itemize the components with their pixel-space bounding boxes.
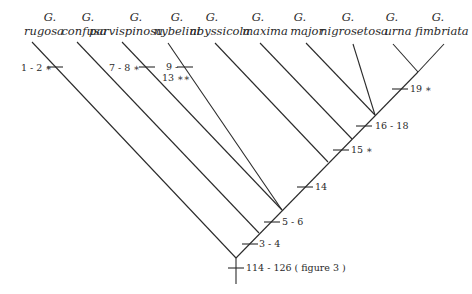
char-label-9: 9 - [166, 61, 178, 72]
species-label: abyssicola [190, 24, 250, 38]
char-label-13: 13 ∗∗ [162, 72, 190, 83]
taxon-labels: G. rugosa G. confusa G. parvispinosa G. … [24, 10, 469, 38]
species-label: maxima [242, 24, 288, 38]
genus-label: G. [206, 10, 218, 24]
branch-nigrosetosa [353, 44, 375, 115]
genus-label: G. [432, 10, 444, 24]
genus-label: G. [252, 10, 264, 24]
species-label: rugosa [24, 24, 64, 38]
char-label-7-8: 7 - 8 ∗ [109, 62, 140, 73]
species-label: fimbriata [414, 24, 469, 38]
genus-label: G. [44, 10, 56, 24]
genus-label: G. [342, 10, 354, 24]
genus-label: G. [294, 10, 306, 24]
branch-rugosa [32, 42, 236, 258]
branch-abyssicola [215, 43, 328, 162]
species-label: urna [384, 24, 411, 38]
char-label-15: 15 ∗ [351, 144, 373, 155]
taxon-parvispinosa: G. parvispinosa [89, 10, 163, 38]
char-label-19: 19 ∗ [410, 83, 432, 94]
taxon-fimbriata: G. fimbriata [414, 10, 469, 38]
species-label: nigrosetosa [320, 24, 388, 38]
char-label-16-18: 16 - 18 [375, 120, 408, 131]
char-label-1-2: 1 - 2 ∗ [21, 62, 52, 73]
branch-maxima [260, 43, 352, 139]
char-label-3-4: 3 - 4 [259, 238, 280, 249]
character-ticks [47, 67, 408, 268]
species-label: parvispinosa [89, 24, 163, 38]
genus-label: G. [130, 10, 142, 24]
branches [32, 42, 444, 284]
main-trunk [236, 72, 418, 258]
branch-major [306, 43, 375, 115]
branch-fimbriata [418, 44, 444, 72]
taxon-rugosa: G. rugosa [24, 10, 64, 38]
character-labels: 1 - 2 ∗ 7 - 8 ∗ 9 - 13 ∗∗ 19 ∗ 16 - 18 1… [21, 61, 432, 273]
taxon-nigrosetosa: G. nigrosetosa [320, 10, 388, 38]
cladogram: G. rugosa G. confusa G. parvispinosa G. … [0, 0, 472, 294]
char-label-14: 14 [315, 181, 327, 192]
genus-label: G. [82, 10, 94, 24]
char-label-114-126: 114 - 126 ( figure 3 ) [246, 262, 346, 273]
char-label-5-6: 5 - 6 [282, 216, 303, 227]
branch-urna [393, 44, 418, 72]
taxon-maxima: G. maxima [242, 10, 288, 38]
taxon-urna: G. urna [384, 10, 411, 38]
branch-nybelini [168, 43, 282, 210]
genus-label: G. [386, 10, 398, 24]
genus-label: G. [171, 10, 183, 24]
taxon-abyssicola: G. abyssicola [190, 10, 250, 38]
